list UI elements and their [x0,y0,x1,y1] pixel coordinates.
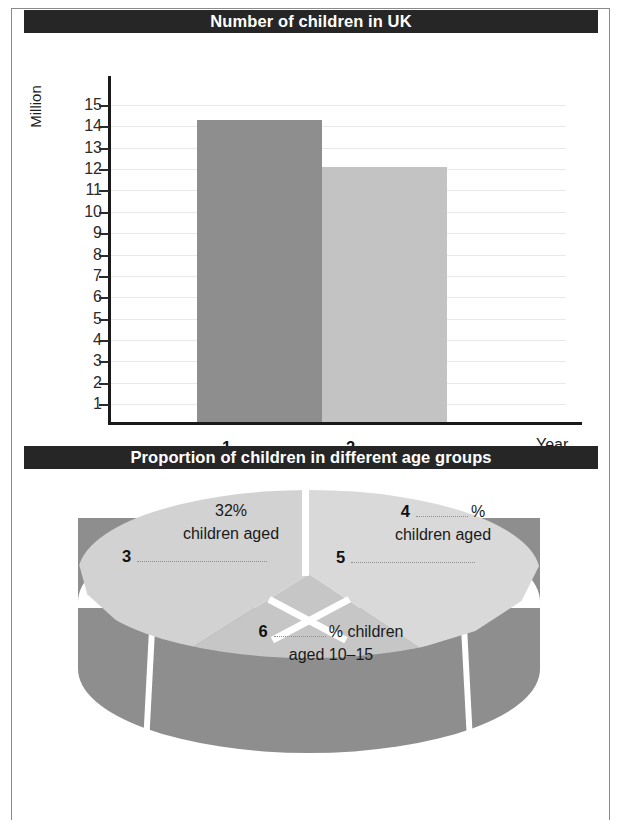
bar-year-2 [322,167,447,422]
pie-right-blank-row: 5 [336,546,550,570]
y-tick-label: 8 [93,246,102,264]
pie-left-text: children aged [122,523,340,546]
question-number-4: 4 [401,502,410,520]
y-tick-label: 12 [84,160,102,178]
y-tick-label: 9 [93,224,102,242]
y-tick-label: 6 [93,288,102,306]
gridline [111,105,566,106]
gridline [111,126,566,127]
answer-blank-5[interactable] [351,551,475,563]
pie-3d-stage: 32% children aged 3 4% children aged 5 6… [60,478,560,808]
y-tick-label: 15 [84,96,102,114]
y-axis-title: Million [27,67,44,147]
y-axis-line [108,76,111,425]
pie-right-percent-sign: % [471,503,485,520]
pie-chart: 32% children aged 3 4% children aged 5 6… [12,470,609,818]
x-axis-line [108,422,582,425]
pie-label-bottom: 6% children aged 10–15 [206,620,456,666]
pie-right-text: children aged [336,524,550,547]
bar-chart: Million 151413121110987654321 1 2 Year [12,36,609,440]
pie-bottom-suffix: % children [329,623,404,640]
pie-chart-title: Proportion of children in different age … [24,446,598,469]
question-number-5: 5 [336,548,345,566]
pie-label-left: 32% children aged 3 [122,500,340,569]
pie-bottom-row-1: 6% children [206,620,456,644]
y-tick-label: 13 [84,139,102,157]
y-tick-label: 5 [93,310,102,328]
pie-left-blank-row: 3 [122,545,340,569]
bar-chart-title: Number of children in UK [24,10,598,33]
question-number-6: 6 [259,622,268,640]
y-tick-label: 1 [93,395,102,413]
answer-blank-3[interactable] [137,550,267,562]
y-tick-label: 10 [84,203,102,221]
y-tick-label: 2 [93,374,102,392]
answer-blank-6[interactable] [274,625,326,637]
pie-left-percent: 32% [122,500,340,523]
answer-blank-4[interactable] [416,505,468,517]
y-tick-label: 11 [85,181,102,199]
pie-label-right: 4% children aged 5 [336,500,550,570]
pie-bottom-row-2: aged 10–15 [206,644,456,667]
figure-page: Number of children in UK Million 1514131… [0,0,621,826]
pie-right-percent-row: 4% [336,500,550,524]
question-number-3: 3 [122,547,131,565]
y-tick-label: 3 [93,352,102,370]
gridline [111,148,566,149]
bar-chart-plot-area: 151413121110987654321 1 2 Year [108,86,582,436]
y-tick-label: 4 [93,331,102,349]
y-tick-label: 7 [93,267,102,285]
bar-year-1 [197,120,322,422]
y-tick-label: 14 [84,117,102,135]
